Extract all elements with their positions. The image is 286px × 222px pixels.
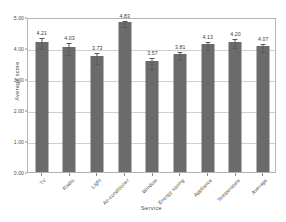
error-bar-cap-lower (67, 55, 72, 56)
error-bar-line (69, 43, 70, 55)
y-tick-label: 2.00 (14, 108, 24, 114)
bar-group: 4.13 (194, 19, 222, 172)
bar-group: 3.73 (83, 19, 111, 172)
plot-area: 4.214.033.734.833.573.814.134.204.07 (27, 18, 276, 173)
y-axis-tick-labels: 0.001.002.003.004.005.00 (0, 0, 27, 222)
bar (35, 42, 48, 173)
error-bar-line (235, 39, 236, 48)
bar (229, 42, 242, 172)
y-tick-label: 4.00 (14, 46, 24, 52)
error-bar-line (41, 38, 42, 49)
bar-series: 4.214.033.734.833.573.814.134.204.07 (28, 19, 275, 172)
error-bar-cap-upper (95, 53, 100, 54)
error-bar-cap-lower (178, 60, 183, 61)
x-tick-mark (96, 173, 97, 176)
x-tick-label: Light (90, 177, 103, 190)
error-bar-cap-upper (67, 43, 72, 44)
error-bar-cap-upper (122, 21, 127, 22)
bar-group: 4.07 (249, 19, 277, 172)
bar-value-label: 4.20 (230, 31, 241, 37)
x-tick-label: Appliance (192, 177, 213, 198)
x-tick-mark (179, 173, 180, 176)
x-tick-label: Air-conditioner (101, 177, 130, 206)
error-bar-line (97, 53, 98, 64)
error-bar-cap-upper (205, 42, 210, 43)
bar-group: 4.83 (111, 19, 139, 172)
bar-value-label: 4.13 (203, 34, 214, 40)
y-tick-label: 5.00 (14, 15, 24, 21)
error-bar-cap-lower (261, 52, 266, 53)
error-bar-cap-lower (233, 48, 238, 49)
x-tick-mark (152, 173, 153, 176)
bar-group: 4.21 (28, 19, 56, 172)
x-tick-label: Average (250, 177, 268, 195)
bar-value-label: 4.83 (120, 13, 131, 19)
error-bar-cap-lower (122, 27, 127, 28)
x-tick-mark (262, 173, 263, 176)
bar-value-label: 4.07 (258, 36, 269, 42)
y-tick-label: 3.00 (14, 77, 24, 83)
error-bar-cap-upper (39, 38, 44, 39)
error-bar-line (180, 52, 181, 61)
error-bar-cap-lower (39, 49, 44, 50)
y-tick-label: 1.00 (14, 139, 24, 145)
bar-value-label: 3.57 (147, 50, 158, 56)
bar (257, 46, 270, 172)
error-bar-cap-lower (150, 69, 155, 70)
error-bar-cap-upper (178, 52, 183, 53)
bar (91, 56, 104, 172)
error-bar-cap-upper (261, 44, 266, 45)
bar (174, 54, 187, 172)
bar-chart-figure: Average score 0.001.002.003.004.005.00 4… (0, 0, 286, 222)
x-tick-label: Temperature (215, 177, 241, 203)
error-bar-cap-upper (233, 39, 238, 40)
x-tick-mark (69, 173, 70, 176)
error-bar-line (152, 58, 153, 69)
error-bar-cap-lower (95, 64, 100, 65)
bar (146, 61, 159, 172)
bar-group: 4.20 (222, 19, 250, 172)
x-tick-label: Window (140, 177, 158, 195)
bar-value-label: 4.21 (37, 30, 48, 36)
error-bar-line (207, 42, 208, 51)
x-tick-mark (207, 173, 208, 176)
x-axis-title: Service (27, 205, 276, 211)
bar-group: 3.57 (139, 19, 167, 172)
error-bar-line (263, 44, 264, 51)
bar-value-label: 4.03 (64, 35, 75, 41)
x-tick-mark (41, 173, 42, 176)
x-tick-label: TV (38, 177, 47, 186)
bar-value-label: 3.81 (175, 44, 186, 50)
bar (201, 44, 214, 172)
x-tick-mark (124, 173, 125, 176)
bar (118, 22, 131, 172)
x-tick-label: Energy saving (157, 177, 185, 205)
x-tick-mark (235, 173, 236, 176)
y-tick-label: 0.00 (14, 170, 24, 176)
error-bar-cap-upper (150, 58, 155, 59)
x-tick-label: Radio (61, 177, 75, 191)
x-axis-tick-labels: TVRadioLightAir-conditionerWindowEnergy … (27, 173, 276, 222)
bar-value-label: 3.73 (92, 45, 103, 51)
bar-group: 3.81 (166, 19, 194, 172)
bar-group: 4.03 (56, 19, 84, 172)
bar (63, 47, 76, 172)
error-bar-cap-lower (205, 50, 210, 51)
